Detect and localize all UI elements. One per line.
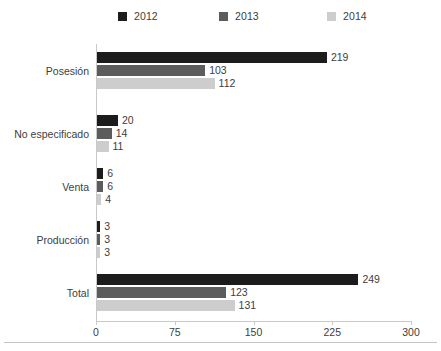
legend-item-2012[interactable]: 2012 (118, 8, 158, 24)
x-tick-mark (411, 321, 412, 325)
plot-area: Posesión219103112No especificado201411Ve… (0, 44, 441, 322)
bar-2013[interactable] (97, 128, 112, 139)
bar-2014[interactable] (97, 247, 100, 258)
bar-group: Producción333 (0, 221, 441, 258)
bar-value-label: 131 (239, 300, 257, 311)
bar-2012[interactable] (97, 221, 100, 232)
x-tick-label: 300 (402, 327, 420, 338)
x-tick-mark (175, 321, 176, 325)
bar-value-label: 11 (113, 141, 124, 152)
bar-row: 6 (97, 168, 412, 179)
bar-value-label: 249 (362, 274, 380, 285)
bar-row: 3 (97, 221, 412, 232)
bar-value-label: 3 (104, 247, 110, 258)
category-label: Venta (0, 182, 89, 193)
bar-2014[interactable] (97, 141, 109, 152)
bar-row: 3 (97, 234, 412, 245)
bar-value-label: 3 (104, 234, 110, 245)
bar-2012[interactable] (97, 115, 118, 126)
bar-row: 103 (97, 65, 412, 76)
bar-group: Posesión219103112 (0, 52, 441, 89)
bar-value-label: 112 (219, 78, 236, 89)
chart-legend: 2012 2013 2014 (0, 8, 441, 28)
bar-value-label: 103 (209, 65, 227, 76)
legend-label-2012: 2012 (134, 11, 158, 22)
bar-2013[interactable] (97, 287, 226, 298)
legend-swatch-2012 (118, 12, 127, 21)
bar-group: Total249123131 (0, 274, 441, 311)
bar-2014[interactable] (97, 78, 215, 89)
bar-2014[interactable] (97, 194, 101, 205)
bar-value-label: 4 (105, 194, 111, 205)
bar-row: 6 (97, 181, 412, 192)
bar-row: 249 (97, 274, 412, 285)
legend-item-2013[interactable]: 2013 (219, 8, 259, 24)
bar-2013[interactable] (97, 181, 103, 192)
bar-value-label: 6 (107, 181, 113, 192)
bar-value-label: 14 (116, 128, 128, 139)
bar-2012[interactable] (97, 168, 103, 179)
bar-row: 14 (97, 128, 412, 139)
bottom-divider (4, 342, 437, 343)
bar-2012[interactable] (97, 52, 327, 63)
x-tick-mark (332, 321, 333, 325)
legend-item-2014[interactable]: 2014 (327, 8, 367, 24)
bar-2012[interactable] (97, 274, 358, 285)
bar-row: 20 (97, 115, 412, 126)
bar-2013[interactable] (97, 65, 205, 76)
bar-value-label: 6 (107, 168, 113, 179)
category-label: Posesión (0, 66, 89, 77)
x-tick-mark (96, 321, 97, 325)
bar-row: 131 (97, 300, 412, 311)
category-label: Producción (0, 235, 89, 246)
bar-2013[interactable] (97, 234, 100, 245)
legend-swatch-2013 (219, 12, 228, 21)
bar-value-label: 3 (104, 221, 110, 232)
bar-row: 112 (97, 78, 412, 89)
category-label: No especificado (0, 129, 89, 140)
bar-row: 3 (97, 247, 412, 258)
bar-row: 4 (97, 194, 412, 205)
bar-value-label: 219 (331, 52, 349, 63)
bar-row: 11 (97, 141, 412, 152)
legend-swatch-2014 (327, 12, 336, 21)
bar-row: 123 (97, 287, 412, 298)
bar-group: Venta664 (0, 168, 441, 205)
bar-row: 219 (97, 52, 412, 63)
x-tick-label: 0 (93, 327, 99, 338)
x-tick-label: 225 (323, 327, 341, 338)
category-label: Total (0, 288, 89, 299)
legend-label-2014: 2014 (343, 11, 367, 22)
x-tick-label: 75 (169, 327, 181, 338)
x-tick-mark (254, 321, 255, 325)
bar-value-label: 20 (122, 115, 134, 126)
x-axis: 075150225300 (0, 321, 441, 343)
bar-value-label: 123 (230, 287, 248, 298)
x-tick-label: 150 (245, 327, 263, 338)
bar-2014[interactable] (97, 300, 235, 311)
bar-chart: 2012 2013 2014 Posesión219103112No espec… (0, 0, 441, 351)
legend-label-2013: 2013 (235, 11, 259, 22)
bar-group: No especificado201411 (0, 115, 441, 152)
